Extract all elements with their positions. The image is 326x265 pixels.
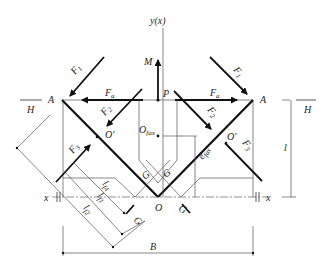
f1-right-label-group: F1 [229, 63, 246, 79]
o-fax-label: Ofax [139, 124, 156, 137]
y-axis-label: y(x) [149, 15, 166, 27]
lf4-dim [73, 162, 124, 213]
fa-right-label: Fa [209, 87, 220, 100]
f1-left-arrow [70, 57, 104, 96]
point-a-right-label: A [259, 94, 267, 105]
height-dim-label: l [284, 142, 287, 153]
f2-right-arrow [174, 91, 211, 129]
fa-left-label: Fa [104, 87, 115, 100]
b-dim-label: B [150, 241, 156, 252]
h-left-label: H [26, 104, 35, 115]
f1-right-label: F1 [229, 63, 246, 79]
b-dim-end-right [252, 252, 254, 254]
e-fax-label-group: efax [195, 143, 213, 162]
point-a-left-label: A [47, 94, 55, 105]
lf1-dim [66, 173, 122, 234]
lf2-ext [113, 221, 145, 247]
f2-left-label-group: F2 [97, 102, 114, 119]
lf-dim-end-2 [121, 233, 123, 235]
o-prime-left-label: O' [105, 129, 115, 140]
f1-left-label-group: F1 [67, 62, 84, 78]
lf1-label-group: lf1 [94, 190, 109, 205]
g-label-3-group: G [132, 214, 145, 227]
f2-right-label: F2 [203, 103, 220, 120]
lf4-label: lf4 [99, 178, 115, 193]
f1-left-label: F1 [67, 62, 84, 78]
x-axis-label-right: x [265, 192, 271, 203]
inner-horiz-right-2 [181, 178, 200, 197]
o-prime-right-point [225, 142, 228, 145]
g-label-3: G [132, 214, 145, 227]
o-fax-point [157, 135, 160, 138]
lf-dim-end-4 [123, 212, 125, 214]
lf-dim-end-3 [112, 246, 114, 248]
point-o-label: O [155, 202, 162, 213]
g-label-4-group: G [177, 203, 188, 216]
lf-dim-end-1 [16, 147, 18, 149]
o-prime-left-point [96, 136, 99, 139]
lf1-label: lf1 [94, 190, 109, 205]
g-bar-left [126, 205, 134, 214]
point-p [156, 98, 159, 101]
o-prime-right-label: O' [227, 131, 237, 142]
inner-horiz-left-2 [115, 178, 135, 197]
lf4-label-group: lf4 [99, 178, 115, 193]
moment-label: M [143, 56, 153, 67]
e-fax-label: efax [195, 143, 213, 162]
structure-diagram: y(x) M P A A H H l x x O O' O' B Ofax ef… [0, 0, 326, 265]
left-outer-ext [17, 115, 50, 148]
x-axis-label-left: x [43, 192, 49, 203]
b-dim-end-left [62, 252, 64, 254]
f2-right-label-group: F2 [203, 103, 220, 120]
point-p-label: P [162, 88, 169, 99]
g-label-4: G [177, 203, 188, 216]
h-right-label: H [303, 104, 312, 115]
f2-left-label: F2 [97, 102, 114, 119]
